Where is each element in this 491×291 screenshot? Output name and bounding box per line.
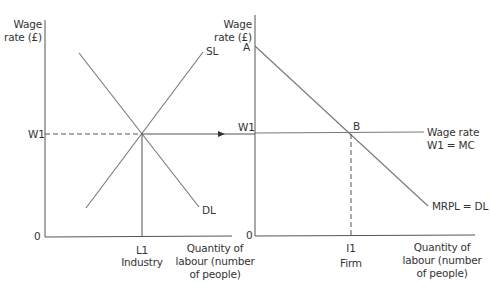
left-y-label-line1: Wage xyxy=(0,18,42,31)
industry-caption: Industry xyxy=(117,256,167,269)
wage-line-label-line1: Wage rate xyxy=(427,126,479,139)
left-y-axis-label: Wage rate (£) xyxy=(0,18,42,44)
wage-line-label-line2: W1 = MC xyxy=(427,139,479,152)
right-x-label-line2: labour (number xyxy=(395,254,489,267)
right-origin-label: 0 xyxy=(246,229,252,242)
left-origin-label: 0 xyxy=(34,230,40,243)
left-x-label-line3: of people) xyxy=(170,268,260,281)
left-demand-curve xyxy=(79,53,199,207)
point-a-label: A xyxy=(243,41,250,54)
i1-label: I1 xyxy=(336,242,366,255)
firm-caption: Firm xyxy=(331,257,371,270)
left-w1-label: W1 xyxy=(28,128,45,141)
supply-label: SL xyxy=(206,45,218,58)
right-wage-line xyxy=(255,132,424,133)
left-x-axis-label: Quantity of labour (number of people) xyxy=(170,242,260,281)
right-y-label-line1: Wage xyxy=(205,18,252,31)
demand-label: DL xyxy=(202,204,216,217)
left-x-label-line2: labour (number xyxy=(170,255,260,268)
wage-line-label: Wage rate W1 = MC xyxy=(427,126,479,152)
right-x-axis xyxy=(255,235,475,236)
left-y-label-line2: rate (£) xyxy=(0,31,42,44)
right-x-label-line1: Quantity of xyxy=(395,241,489,254)
mrpl-label: MRPL = DL xyxy=(432,200,488,213)
left-x-axis xyxy=(45,236,232,237)
right-x-axis-label: Quantity of labour (number of people) xyxy=(395,241,489,280)
point-b-label: B xyxy=(353,120,360,133)
right-x-label-line3: of people) xyxy=(395,267,489,280)
right-w1-label: W1 xyxy=(238,121,255,134)
left-x-label-line1: Quantity of xyxy=(170,242,260,255)
left-supply-curve xyxy=(86,52,203,208)
right-mrpl-curve xyxy=(255,46,428,206)
